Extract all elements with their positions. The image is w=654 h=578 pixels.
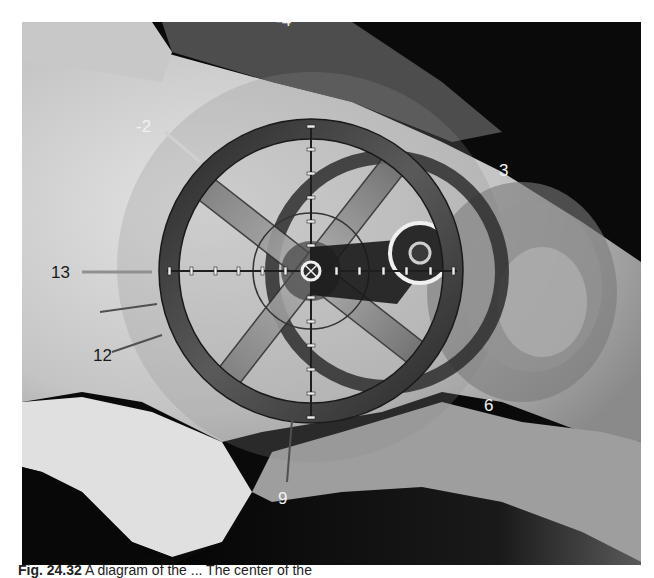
caption-figure-number: Fig. 24.32 <box>18 562 82 578</box>
label-minus-2: -2 <box>136 118 151 135</box>
caption-text: A diagram of the ... The center of the <box>85 562 312 578</box>
label-12: 12 <box>93 347 112 364</box>
label-6: 6 <box>484 397 493 414</box>
anatomical-figure: -4 -2 3 13 12 6 9 <box>22 22 641 565</box>
figure-illustration <box>22 22 641 565</box>
label-9: 9 <box>278 490 287 507</box>
label-13: 13 <box>51 264 70 281</box>
label-3: 3 <box>499 162 508 179</box>
figure-caption: Fig. 24.32 A diagram of the ... The cent… <box>18 562 648 578</box>
label-minus-4: -4 <box>276 22 291 29</box>
